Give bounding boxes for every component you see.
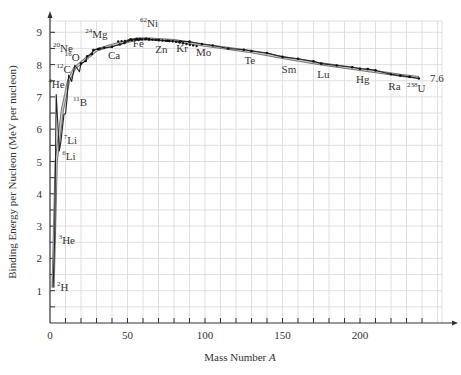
value-label-7-6: 7.6 (430, 72, 444, 84)
svg-text:8: 8 (37, 59, 43, 71)
element-label-u-238: 238U (407, 81, 426, 94)
svg-text:2: 2 (37, 252, 43, 264)
element-label-li-6: 6Li (62, 149, 75, 162)
x-axis-title: Mass Number A (204, 351, 276, 363)
element-label-he-3: 3He (59, 233, 75, 246)
svg-text:3: 3 (37, 220, 43, 232)
element-label-hg: Hg (356, 73, 370, 85)
svg-text:1: 1 (37, 285, 43, 297)
svg-text:5: 5 (37, 156, 43, 168)
svg-text:9: 9 (37, 26, 43, 38)
element-label-kr: Kr (176, 42, 188, 54)
svg-text:0: 0 (47, 329, 53, 341)
svg-text:4: 4 (37, 188, 43, 200)
y-axis-title: Binding Energy per Nucleon (MeV per nucl… (6, 65, 19, 279)
svg-text:100: 100 (197, 329, 214, 341)
svg-text:150: 150 (274, 329, 291, 341)
element-annotations: 2H3He4He6Li7Li11B12C16O20Ne24MgCaFe62NiZ… (48, 16, 444, 294)
element-label-he-4: 4He (48, 77, 64, 90)
svg-text:200: 200 (352, 329, 369, 341)
element-label-mo: Mo (196, 46, 212, 58)
element-label-fe: Fe (133, 37, 144, 49)
element-label-zn: Zn (155, 43, 168, 55)
element-label-lu: Lu (317, 68, 330, 80)
element-label-te: Te (244, 54, 255, 66)
element-label-mg-24: 24Mg (85, 27, 108, 40)
binding-energy-chart: 050100150200123456789 2H3He4He6Li7Li11B1… (0, 0, 461, 375)
svg-text:50: 50 (122, 329, 134, 341)
element-label-h-2: 2H (57, 280, 69, 293)
element-label-ne-20: 20Ne (53, 41, 73, 54)
element-label-sm: Sm (282, 63, 297, 75)
element-label-c-12: 12C (57, 62, 71, 75)
element-label-ra: Ra (388, 80, 400, 92)
svg-text:6: 6 (37, 123, 43, 135)
svg-text:7: 7 (37, 91, 43, 103)
element-label-b-11: 11B (73, 95, 87, 108)
element-label-ca: Ca (108, 49, 120, 61)
